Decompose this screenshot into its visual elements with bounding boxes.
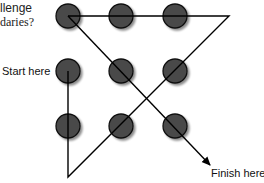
dot-r3c3 — [163, 114, 187, 138]
puzzle-graphic — [0, 0, 264, 183]
dot-r3c2 — [109, 114, 133, 138]
path-segments — [68, 16, 229, 177]
arrow-segment — [68, 16, 210, 165]
finish-label: Finish here — [211, 167, 264, 179]
dot-r2c3 — [163, 59, 187, 83]
start-label: Start here — [2, 65, 50, 77]
nine-dot-puzzle-diagram: llenge daries? — [0, 0, 264, 183]
solution-path — [68, 16, 229, 177]
